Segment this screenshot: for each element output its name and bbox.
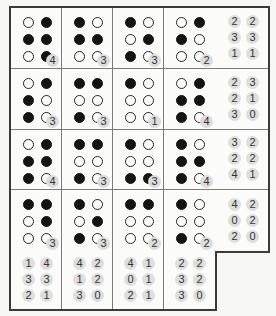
filled-dot-icon[interactable] <box>125 51 136 62</box>
empty-dot-icon[interactable] <box>92 95 103 106</box>
filled-dot-icon[interactable] <box>92 78 103 89</box>
empty-dot-icon[interactable] <box>125 112 136 123</box>
puzzle-cell[interactable]: 3 <box>11 69 62 130</box>
empty-dot-icon[interactable] <box>176 78 187 89</box>
puzzle-cell[interactable]: 3 <box>113 8 164 69</box>
filled-dot-icon[interactable] <box>74 34 85 45</box>
empty-dot-icon[interactable] <box>194 216 205 227</box>
filled-dot-icon[interactable] <box>125 199 136 210</box>
filled-dot-icon[interactable] <box>194 78 205 89</box>
filled-dot-icon[interactable] <box>74 17 85 28</box>
filled-dot-icon[interactable] <box>143 199 154 210</box>
filled-dot-icon[interactable] <box>23 199 34 210</box>
filled-dot-icon[interactable] <box>125 139 136 150</box>
filled-dot-icon[interactable] <box>41 78 52 89</box>
filled-dot-icon[interactable] <box>194 95 205 106</box>
filled-dot-icon[interactable] <box>41 199 52 210</box>
empty-dot-icon[interactable] <box>23 51 34 62</box>
filled-dot-icon[interactable] <box>23 112 34 123</box>
filled-dot-icon[interactable] <box>194 156 205 167</box>
filled-dot-icon[interactable] <box>125 173 136 184</box>
puzzle-cell[interactable]: 1 <box>113 69 164 130</box>
empty-dot-icon[interactable] <box>125 95 136 106</box>
puzzle-cell[interactable]: 3 <box>62 190 113 251</box>
empty-dot-icon[interactable] <box>176 17 187 28</box>
filled-dot-icon[interactable] <box>176 156 187 167</box>
filled-dot-icon[interactable] <box>176 233 187 244</box>
filled-dot-icon[interactable] <box>41 17 52 28</box>
empty-dot-icon[interactable] <box>92 17 103 28</box>
empty-dot-icon[interactable] <box>143 17 154 28</box>
puzzle-cell[interactable]: 3 <box>11 190 62 251</box>
empty-dot-icon[interactable] <box>176 51 187 62</box>
filled-dot-icon[interactable] <box>74 139 85 150</box>
filled-dot-icon[interactable] <box>143 34 154 45</box>
empty-dot-icon[interactable] <box>23 78 34 89</box>
empty-dot-icon[interactable] <box>23 139 34 150</box>
empty-dot-icon[interactable] <box>143 95 154 106</box>
filled-dot-icon[interactable] <box>74 173 85 184</box>
filled-dot-icon[interactable] <box>41 139 52 150</box>
clue-number: 4 <box>40 257 53 270</box>
empty-dot-icon[interactable] <box>74 156 85 167</box>
filled-dot-icon[interactable] <box>41 216 52 227</box>
filled-dot-icon[interactable] <box>92 34 103 45</box>
filled-dot-icon[interactable] <box>176 173 187 184</box>
puzzle-cell[interactable]: 2 <box>164 8 215 69</box>
empty-dot-icon[interactable] <box>194 34 205 45</box>
empty-dot-icon[interactable] <box>125 216 136 227</box>
clue-number: 2 <box>246 198 259 211</box>
clue-number: 2 <box>228 152 241 165</box>
empty-dot-icon[interactable] <box>74 95 85 106</box>
empty-dot-icon[interactable] <box>194 139 205 150</box>
empty-dot-icon[interactable] <box>125 233 136 244</box>
filled-dot-icon[interactable] <box>74 112 85 123</box>
filled-dot-icon[interactable] <box>23 173 34 184</box>
puzzle-cell[interactable]: 2 <box>164 190 215 251</box>
empty-dot-icon[interactable] <box>92 156 103 167</box>
puzzle-cell[interactable]: 2 <box>113 190 164 251</box>
filled-dot-icon[interactable] <box>74 78 85 89</box>
empty-dot-icon[interactable] <box>125 34 136 45</box>
puzzle-cell[interactable]: 3 <box>62 69 113 130</box>
filled-dot-icon[interactable] <box>176 112 187 123</box>
puzzle-cell[interactable]: 3 <box>113 130 164 191</box>
empty-dot-icon[interactable] <box>125 156 136 167</box>
empty-dot-icon[interactable] <box>176 216 187 227</box>
empty-dot-icon[interactable] <box>23 216 34 227</box>
filled-dot-icon[interactable] <box>23 156 34 167</box>
filled-dot-icon[interactable] <box>23 95 34 106</box>
empty-dot-icon[interactable] <box>74 216 85 227</box>
empty-dot-icon[interactable] <box>194 199 205 210</box>
filled-dot-icon[interactable] <box>41 34 52 45</box>
filled-dot-icon[interactable] <box>74 199 85 210</box>
filled-dot-icon[interactable] <box>176 34 187 45</box>
empty-dot-icon[interactable] <box>23 17 34 28</box>
filled-dot-icon[interactable] <box>176 139 187 150</box>
filled-dot-icon[interactable] <box>74 233 85 244</box>
empty-dot-icon[interactable] <box>74 51 85 62</box>
filled-dot-icon[interactable] <box>176 95 187 106</box>
filled-dot-icon[interactable] <box>125 78 136 89</box>
empty-dot-icon[interactable] <box>143 216 154 227</box>
filled-dot-icon[interactable] <box>23 34 34 45</box>
puzzle-cell[interactable]: 4 <box>164 130 215 191</box>
empty-dot-icon[interactable] <box>92 199 103 210</box>
filled-dot-icon[interactable] <box>125 17 136 28</box>
filled-dot-icon[interactable] <box>92 216 103 227</box>
puzzle-cell[interactable]: 4 <box>164 69 215 130</box>
puzzle-cell[interactable]: 4 <box>11 130 62 191</box>
column-clue-block: 143321 <box>11 251 62 309</box>
filled-dot-icon[interactable] <box>194 17 205 28</box>
empty-dot-icon[interactable] <box>143 156 154 167</box>
filled-dot-icon[interactable] <box>92 139 103 150</box>
empty-dot-icon[interactable] <box>23 233 34 244</box>
puzzle-cell[interactable]: 3 <box>62 130 113 191</box>
empty-dot-icon[interactable] <box>143 78 154 89</box>
filled-dot-icon[interactable] <box>41 156 52 167</box>
empty-dot-icon[interactable] <box>143 139 154 150</box>
puzzle-cell[interactable]: 4 <box>11 8 62 69</box>
puzzle-cell[interactable]: 3 <box>62 8 113 69</box>
filled-dot-icon[interactable] <box>176 199 187 210</box>
empty-dot-icon[interactable] <box>41 95 52 106</box>
